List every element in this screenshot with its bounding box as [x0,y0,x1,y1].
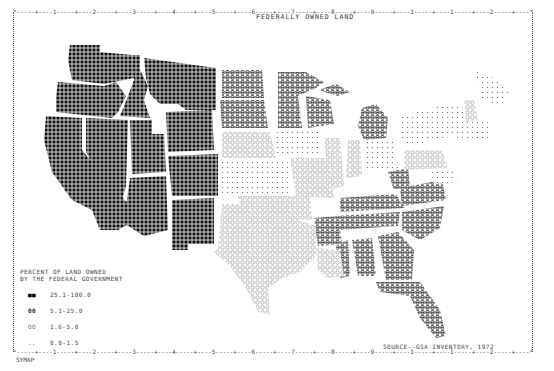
class-25-100-regions [44,45,218,250]
region-pennsylvania-nj [404,150,448,170]
region-carolinas [402,206,444,240]
legend-range: 25.1-100.0 [50,291,91,298]
legend-range: 1.6-5.0 [50,323,79,330]
legend-range: 5.1-25.0 [50,307,83,314]
legend-row-class1: .. 0.0-1.5 [20,339,123,346]
circle-symbol-icon: OO [28,323,40,330]
legend-row-class2: OO 1.6-5.0 [20,323,123,330]
legend-heading-line1: PERCENT OF LAND OWNED [20,268,123,275]
region-colorado [168,154,218,196]
region-maryland-delaware [430,170,458,184]
region-north-dakota [222,70,264,98]
region-montana [144,58,216,110]
region-wyoming [166,110,214,152]
legend: PERCENT OF LAND OWNED BY THE FEDERAL GOV… [20,268,123,346]
legend-heading-line2: BY THE FEDERAL GOVERNMENT [20,275,123,282]
region-iowa [274,130,322,156]
region-south-dakota [220,100,268,128]
legend-range: 0.0-1.5 [50,339,79,346]
map-title: FEDERALLY OWNED LAND [256,13,354,21]
region-oregon [56,82,126,118]
region-arizona [122,176,168,236]
region-new-hampshire [464,100,478,122]
solid-block-symbol-icon: ■■ [28,291,40,298]
region-kansas [222,160,290,194]
legend-row-class4: ■■ 25.1-100.0 [20,291,123,298]
program-name: SYMAP [16,356,34,363]
region-washington [68,45,134,84]
source-note: SOURCE--GSA INVENTORY, 1972 [383,343,494,350]
region-texas [214,204,316,314]
region-nebraska [222,132,276,158]
region-michigan-upper [318,84,350,96]
region-maine [476,70,512,104]
theta-symbol-icon: ΘΘ [28,307,40,314]
region-georgia [378,232,414,280]
region-utah [130,120,166,174]
region-new-mexico [172,198,214,250]
legend-row-class3: ΘΘ 5.1-25.0 [20,307,123,314]
legend-heading: PERCENT OF LAND OWNED BY THE FEDERAL GOV… [20,268,123,282]
region-wisconsin [306,96,334,128]
region-florida [376,282,446,338]
region-tennessee [336,212,400,230]
dot-symbol-icon: .. [28,339,40,346]
region-michigan-lower [358,104,388,140]
region-louisiana [316,248,344,278]
region-kentucky [340,194,404,212]
region-indiana [346,140,362,178]
region-west-virginia [388,168,410,190]
region-alabama [352,238,376,276]
region-ohio [364,140,398,172]
